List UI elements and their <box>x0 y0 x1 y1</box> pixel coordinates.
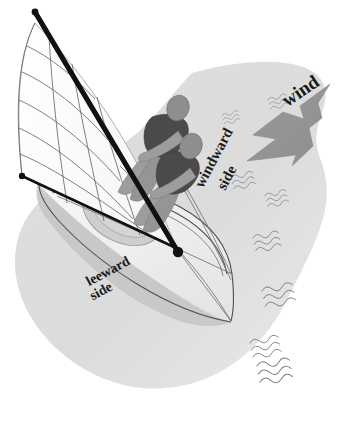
sailing-diagram-canvas: wind windward side leeward side <box>0 0 353 428</box>
wave-mark-8 <box>256 357 293 385</box>
sailing-diagram: wind windward side leeward side <box>0 0 353 428</box>
